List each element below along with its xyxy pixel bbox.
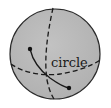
arc-start-point bbox=[28, 47, 32, 51]
sphere bbox=[10, 9, 100, 99]
sphere-diagram: circle bbox=[0, 0, 111, 108]
arc-end-point bbox=[67, 86, 71, 90]
sphere-svg bbox=[0, 0, 111, 108]
circle-label: circle bbox=[51, 56, 88, 69]
